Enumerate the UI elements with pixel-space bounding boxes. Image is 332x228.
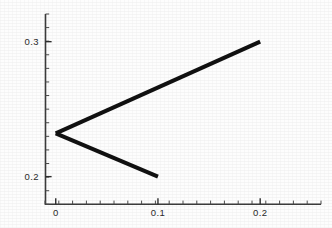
series-line-lower-branch	[56, 133, 158, 176]
plot-canvas	[0, 0, 332, 228]
series-line-upper-branch	[56, 42, 260, 134]
x-tick-label: 0	[36, 208, 76, 218]
y-tick-label: 0.2	[10, 172, 39, 182]
y-axis-ticks	[46, 14, 52, 204]
x-tick-label: 0.2	[240, 208, 280, 218]
axes-group	[45, 14, 321, 205]
x-axis-ticks	[45, 198, 321, 204]
x-tick-label: 0.1	[138, 208, 178, 218]
data-series-group	[56, 42, 260, 177]
y-tick-label: 0.3	[10, 37, 39, 47]
chart-figure: 0.20.3 00.10.2	[0, 0, 332, 228]
